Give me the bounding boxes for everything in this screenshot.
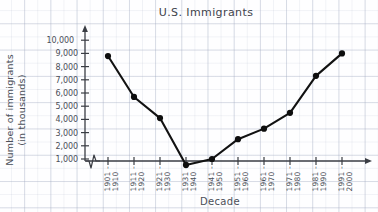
data-point <box>235 136 241 142</box>
data-point <box>105 53 111 59</box>
data-point <box>339 50 345 56</box>
data-point <box>157 115 163 121</box>
data-series-line <box>108 53 342 165</box>
axis-break-zigzag-icon <box>86 155 100 168</box>
data-point <box>287 110 293 116</box>
chart-container: U.S. Immigrants Number of immigrants (in… <box>0 0 378 212</box>
data-point <box>261 126 267 132</box>
data-point <box>183 162 189 168</box>
x-axis-arrowhead <box>365 158 372 164</box>
plot-area <box>0 0 378 212</box>
data-point <box>131 94 137 100</box>
y-axis-arrowhead <box>82 25 88 32</box>
data-point <box>209 156 215 162</box>
data-point <box>313 73 319 79</box>
